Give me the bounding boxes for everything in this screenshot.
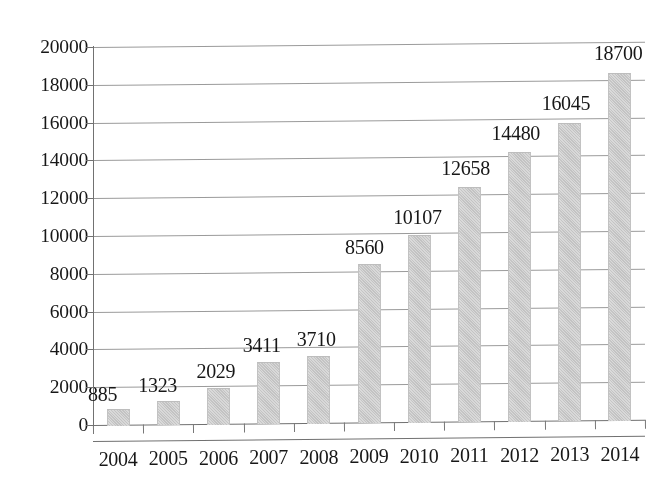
bar-value-label: 3710 [297,329,336,349]
y-axis-tick-mark [86,349,94,350]
x-axis-tick-label: 2004 [90,447,146,471]
chart-canvas: 0200040006000800010000120001400016000180… [0,0,664,497]
y-axis-tick-mark [86,387,94,388]
x-axis-tick-label: 2012 [492,443,548,467]
x-axis-tick-label: 2006 [190,446,246,470]
bar-value-label: 18700 [594,43,643,63]
x-axis-tick-label: 2008 [291,445,347,469]
bar-value-label: 16045 [542,93,591,113]
bar-value-label: 14480 [492,123,541,143]
y-axis-tick-mark [86,236,94,237]
bar-chart: 0200040006000800010000120001400016000180… [0,0,664,497]
x-axis-tick-label: 2011 [441,443,497,467]
bar-value-labels: 8851323202934113710856010107126581448016… [0,0,664,497]
x-axis-tick-label: 2014 [592,442,648,466]
x-axis-tick-label: 2005 [140,446,196,470]
y-axis-tick-mark [86,123,94,124]
x-axis-tick-label: 2013 [542,442,598,466]
y-axis-tick-mark [86,425,94,426]
y-axis-tick-mark [86,274,94,275]
bar-value-label: 2029 [196,361,235,381]
x-axis-tick-label: 2009 [341,444,397,468]
y-axis-tick-mark [86,312,94,313]
x-axis-tick-label: 2010 [391,444,447,468]
y-axis-tick-mark [86,160,94,161]
y-axis-tick-mark [86,47,94,48]
x-axis-tick-label: 2007 [241,445,297,469]
bar-value-label: 1323 [138,375,177,395]
x-axis-category-labels: 2004200520062007200820092010201120122013… [93,441,645,481]
bar-value-label: 8560 [345,237,384,257]
bar-value-label: 3411 [243,335,281,355]
bar-value-label: 12658 [441,158,490,178]
y-axis-tick-mark [86,85,94,86]
bar-value-label: 10107 [393,207,442,227]
y-axis-tick-mark [86,198,94,199]
